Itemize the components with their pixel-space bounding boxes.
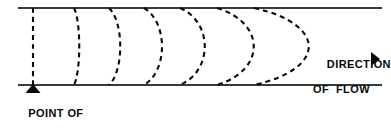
point-of-entry-label: POINT OF ENTRY bbox=[10, 95, 88, 130]
arrow-right-icon bbox=[371, 52, 380, 66]
velocity-profile-5 bbox=[180, 8, 205, 85]
direction-of-flow-label-line1: DIRECTION bbox=[327, 58, 391, 70]
flow-profile-diagram: POINT OF ENTRY DIRECTION OF FLOW bbox=[0, 0, 391, 130]
velocity-profile-group bbox=[33, 8, 309, 85]
point-of-entry-label-line1: POINT OF bbox=[28, 107, 83, 119]
direction-of-flow-label-line2: OF FLOW bbox=[313, 83, 391, 95]
velocity-profile-6 bbox=[217, 8, 254, 85]
velocity-profile-4 bbox=[144, 8, 162, 85]
velocity-profile-2 bbox=[74, 8, 79, 85]
velocity-profile-3 bbox=[109, 8, 120, 85]
velocity-profile-7 bbox=[254, 8, 309, 85]
